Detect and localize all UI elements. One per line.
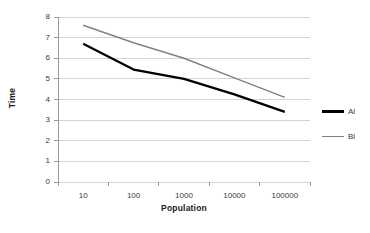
line-chart: Time Population 012345678 10100100010000…: [0, 0, 370, 233]
y-axis-tick-label: 8: [30, 12, 50, 21]
series-line-bl: [83, 25, 285, 97]
y-axis-tick-label: 1: [30, 156, 50, 165]
y-axis-tick-label: 6: [30, 53, 50, 62]
legend-swatch-icon: [322, 136, 344, 137]
x-axis-title: Population: [58, 203, 310, 213]
x-axis-tick-label: 1000: [156, 191, 212, 200]
x-axis-tick-label: 10000: [206, 191, 262, 200]
y-axis-tick-label: 2: [30, 136, 50, 145]
x-axis-title-text: Population: [161, 203, 207, 213]
y-axis-tick-label: 4: [30, 95, 50, 104]
legend-swatch-icon: [322, 110, 344, 112]
y-axis-title-text: Time: [7, 88, 17, 109]
series-line-al: [83, 44, 285, 112]
legend-item-bl[interactable]: Bl: [322, 132, 355, 141]
legend-label: Al: [348, 107, 355, 116]
y-axis-title: Time: [2, 0, 22, 196]
y-axis-tick-label: 3: [30, 115, 50, 124]
y-axis-tick-label: 5: [30, 74, 50, 83]
y-axis-tick-label: 0: [30, 177, 50, 186]
x-axis-tick-label: 100000: [257, 191, 313, 200]
x-axis-tick-label: 10: [55, 191, 111, 200]
x-axis-tick-label: 100: [106, 191, 162, 200]
y-axis-tick-label: 7: [30, 33, 50, 42]
legend-item-al[interactable]: Al: [322, 107, 355, 116]
legend-label: Bl: [348, 132, 355, 141]
